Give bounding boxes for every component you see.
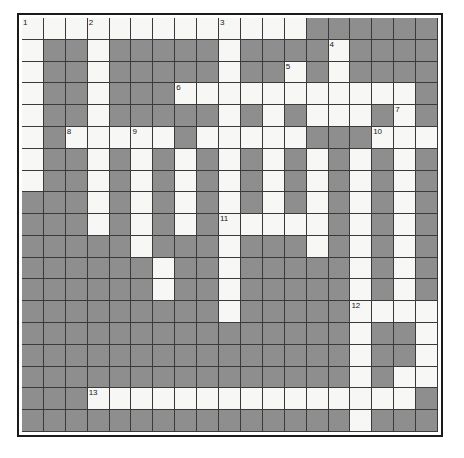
- grid-open-cell[interactable]: [131, 214, 153, 236]
- grid-open-cell[interactable]: [110, 18, 132, 40]
- grid-open-cell[interactable]: [350, 258, 372, 280]
- grid-open-cell[interactable]: [175, 388, 197, 410]
- grid-open-cell[interactable]: [394, 388, 416, 410]
- grid-open-cell[interactable]: [88, 127, 110, 149]
- grid-open-cell[interactable]: [88, 105, 110, 127]
- grid-open-cell[interactable]: [350, 367, 372, 389]
- grid-open-cell[interactable]: [88, 171, 110, 193]
- grid-open-cell[interactable]: [241, 214, 263, 236]
- grid-open-cell[interactable]: [88, 192, 110, 214]
- grid-open-cell[interactable]: [197, 127, 219, 149]
- grid-open-cell[interactable]: [219, 171, 241, 193]
- grid-open-cell[interactable]: 7: [394, 105, 416, 127]
- grid-open-cell[interactable]: [88, 149, 110, 171]
- grid-open-cell[interactable]: [263, 127, 285, 149]
- grid-open-cell[interactable]: [263, 83, 285, 105]
- grid-open-cell[interactable]: [350, 149, 372, 171]
- grid-open-cell[interactable]: [241, 388, 263, 410]
- grid-open-cell[interactable]: [153, 127, 175, 149]
- grid-open-cell[interactable]: [219, 149, 241, 171]
- grid-open-cell[interactable]: [307, 214, 329, 236]
- grid-open-cell[interactable]: [416, 301, 438, 323]
- grid-open-cell[interactable]: [219, 127, 241, 149]
- grid-open-cell[interactable]: [175, 149, 197, 171]
- grid-open-cell[interactable]: [241, 18, 263, 40]
- grid-open-cell[interactable]: [350, 192, 372, 214]
- grid-open-cell[interactable]: [219, 301, 241, 323]
- grid-open-cell[interactable]: [110, 127, 132, 149]
- grid-open-cell[interactable]: [131, 192, 153, 214]
- grid-open-cell[interactable]: [88, 83, 110, 105]
- grid-open-cell[interactable]: [416, 367, 438, 389]
- grid-open-cell[interactable]: [22, 105, 44, 127]
- grid-open-cell[interactable]: [394, 258, 416, 280]
- grid-open-cell[interactable]: [372, 301, 394, 323]
- grid-open-cell[interactable]: [285, 18, 307, 40]
- grid-open-cell[interactable]: [350, 171, 372, 193]
- grid-open-cell[interactable]: [263, 18, 285, 40]
- grid-open-cell[interactable]: [394, 367, 416, 389]
- grid-open-cell[interactable]: [307, 149, 329, 171]
- grid-open-cell[interactable]: [219, 279, 241, 301]
- grid-open-cell[interactable]: [219, 62, 241, 84]
- grid-open-cell[interactable]: [394, 149, 416, 171]
- grid-open-cell[interactable]: [66, 18, 88, 40]
- grid-open-cell[interactable]: [263, 149, 285, 171]
- grid-open-cell[interactable]: 6: [175, 83, 197, 105]
- grid-open-cell[interactable]: 3: [219, 18, 241, 40]
- grid-open-cell[interactable]: [350, 279, 372, 301]
- grid-open-cell[interactable]: [263, 214, 285, 236]
- grid-open-cell[interactable]: [22, 62, 44, 84]
- grid-open-cell[interactable]: [263, 171, 285, 193]
- grid-open-cell[interactable]: [197, 18, 219, 40]
- grid-open-cell[interactable]: [22, 171, 44, 193]
- grid-open-cell[interactable]: [307, 192, 329, 214]
- grid-open-cell[interactable]: 9: [131, 127, 153, 149]
- grid-open-cell[interactable]: [131, 171, 153, 193]
- grid-open-cell[interactable]: [131, 18, 153, 40]
- grid-open-cell[interactable]: [131, 236, 153, 258]
- grid-open-cell[interactable]: 12: [350, 301, 372, 323]
- grid-open-cell[interactable]: [416, 127, 438, 149]
- grid-open-cell[interactable]: [22, 40, 44, 62]
- grid-open-cell[interactable]: 2: [88, 18, 110, 40]
- grid-open-cell[interactable]: [219, 105, 241, 127]
- grid-open-cell[interactable]: [153, 279, 175, 301]
- grid-open-cell[interactable]: [22, 149, 44, 171]
- grid-open-cell[interactable]: [88, 62, 110, 84]
- grid-open-cell[interactable]: [394, 127, 416, 149]
- grid-open-cell[interactable]: [219, 258, 241, 280]
- grid-open-cell[interactable]: [329, 83, 351, 105]
- grid-open-cell[interactable]: [307, 388, 329, 410]
- grid-open-cell[interactable]: [219, 236, 241, 258]
- grid-open-cell[interactable]: [307, 236, 329, 258]
- grid-open-cell[interactable]: [394, 236, 416, 258]
- grid-open-cell[interactable]: [44, 18, 66, 40]
- grid-open-cell[interactable]: 11: [219, 214, 241, 236]
- grid-open-cell[interactable]: [197, 83, 219, 105]
- grid-open-cell[interactable]: [175, 171, 197, 193]
- grid-open-cell[interactable]: [350, 388, 372, 410]
- grid-open-cell[interactable]: [88, 214, 110, 236]
- grid-open-cell[interactable]: [329, 388, 351, 410]
- grid-open-cell[interactable]: 10: [372, 127, 394, 149]
- grid-open-cell[interactable]: 4: [329, 40, 351, 62]
- grid-open-cell[interactable]: [416, 323, 438, 345]
- grid-open-cell[interactable]: [175, 192, 197, 214]
- grid-open-cell[interactable]: [285, 83, 307, 105]
- grid-open-cell[interactable]: [416, 345, 438, 367]
- grid-open-cell[interactable]: [22, 127, 44, 149]
- grid-open-cell[interactable]: [285, 214, 307, 236]
- grid-open-cell[interactable]: [22, 83, 44, 105]
- grid-open-cell[interactable]: [219, 192, 241, 214]
- grid-open-cell[interactable]: 8: [66, 127, 88, 149]
- grid-open-cell[interactable]: [285, 388, 307, 410]
- grid-open-cell[interactable]: [329, 62, 351, 84]
- grid-open-cell[interactable]: [307, 105, 329, 127]
- grid-open-cell[interactable]: [110, 388, 132, 410]
- grid-open-cell[interactable]: [153, 388, 175, 410]
- grid-open-cell[interactable]: [394, 279, 416, 301]
- grid-open-cell[interactable]: [372, 83, 394, 105]
- grid-open-cell[interactable]: [175, 214, 197, 236]
- grid-open-cell[interactable]: [350, 323, 372, 345]
